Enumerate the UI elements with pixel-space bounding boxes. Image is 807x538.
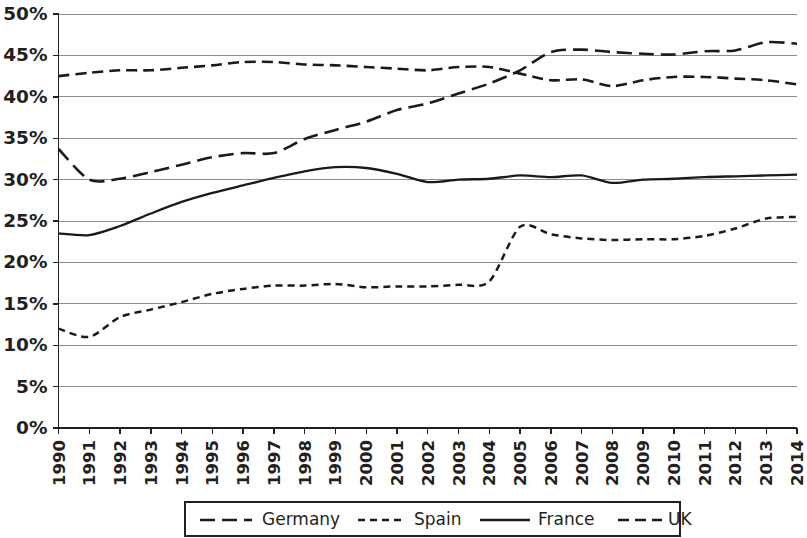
x-tick-label: 1998 — [296, 440, 315, 486]
x-tick-label: 2013 — [757, 440, 776, 486]
y-tick-marks — [53, 14, 59, 428]
x-tick-label: 2006 — [542, 440, 561, 486]
y-tick-label: 45% — [3, 44, 47, 65]
plot-series — [59, 42, 798, 337]
x-tick-label: 1990 — [50, 440, 69, 486]
series-line-germany — [59, 42, 798, 182]
y-tick-label: 10% — [3, 334, 47, 355]
legend-label-spain: Spain — [414, 509, 462, 529]
y-tick-label: 0% — [16, 417, 47, 438]
series-line-france — [59, 167, 798, 235]
series-line-uk — [59, 62, 798, 86]
x-tick-label: 1995 — [203, 440, 222, 486]
x-tick-label: 2010 — [665, 440, 684, 486]
legend-items: GermanySpainFranceUK — [200, 509, 692, 529]
x-tick-label: 2001 — [388, 440, 407, 486]
x-tick-label: 2012 — [726, 440, 745, 486]
series-line-spain — [59, 217, 798, 337]
x-tick-marks — [59, 428, 798, 434]
x-tick-label: 1991 — [80, 440, 99, 486]
y-tick-label: 30% — [3, 169, 47, 190]
y-axis: 0%5%10%15%20%25%30%35%40%45%50% — [3, 3, 58, 438]
x-tick-label: 2011 — [696, 440, 715, 486]
x-tick-label: 1999 — [326, 440, 345, 486]
x-tick-label: 2004 — [480, 440, 499, 486]
x-tick-label: 2008 — [603, 440, 622, 486]
x-tick-label: 2003 — [450, 440, 469, 486]
y-tick-label: 15% — [3, 293, 47, 314]
x-axis: 1990199119921993199419951996199719981999… — [50, 428, 807, 486]
x-tick-label: 1994 — [173, 440, 192, 486]
legend-label-germany: Germany — [262, 509, 340, 529]
y-tick-label: 25% — [3, 210, 47, 231]
y-tick-labels: 0%5%10%15%20%25%30%35%40%45%50% — [3, 3, 47, 438]
x-tick-label: 2014 — [788, 440, 807, 486]
x-tick-label: 2005 — [511, 440, 530, 486]
y-tick-label: 40% — [3, 86, 47, 107]
x-tick-label: 2002 — [419, 440, 438, 486]
legend-label-uk: UK — [668, 509, 692, 529]
chart-legend: GermanySpainFranceUK — [185, 502, 692, 536]
x-tick-label: 1993 — [142, 440, 161, 486]
x-tick-label: 2007 — [573, 440, 592, 486]
x-tick-label: 2000 — [357, 440, 376, 486]
x-tick-labels: 1990199119921993199419951996199719981999… — [50, 440, 807, 486]
y-tick-label: 50% — [3, 3, 47, 24]
legend-label-france: France — [538, 509, 595, 529]
y-tick-label: 20% — [3, 251, 47, 272]
line-chart: 0%5%10%15%20%25%30%35%40%45%50% 19901991… — [0, 0, 807, 538]
x-tick-label: 1996 — [234, 440, 253, 486]
x-tick-label: 1997 — [265, 440, 284, 486]
chart-container: 0%5%10%15%20%25%30%35%40%45%50% 19901991… — [0, 0, 807, 538]
y-tick-label: 5% — [16, 376, 47, 397]
x-tick-label: 1992 — [111, 440, 130, 486]
y-tick-label: 35% — [3, 127, 47, 148]
x-tick-label: 2009 — [634, 440, 653, 486]
